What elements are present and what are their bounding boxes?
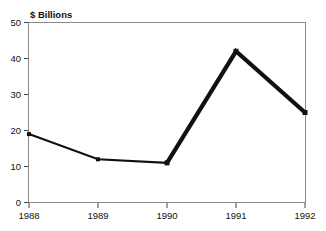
- data-point-marker: [234, 49, 239, 54]
- x-tick-label: 1991: [225, 210, 246, 221]
- y-tick-label: 30: [10, 89, 21, 100]
- chart-background: [0, 0, 326, 231]
- data-point-marker: [27, 132, 31, 136]
- y-tick-label: 50: [10, 17, 21, 28]
- y-tick-label: 10: [10, 161, 21, 172]
- x-tick-label: 1988: [18, 210, 39, 221]
- data-point-marker: [165, 160, 170, 165]
- y-tick-label: 20: [10, 125, 21, 136]
- chart-container: $ Billions 50 40 30 20 10: [0, 0, 326, 231]
- x-tick-label: 1989: [87, 210, 108, 221]
- x-tick-label: 1992: [294, 210, 315, 221]
- data-point-marker: [303, 110, 308, 115]
- y-tick-label: 40: [10, 53, 21, 64]
- chart-title: $ Billions: [30, 9, 72, 20]
- y-tick-label: 0: [16, 197, 21, 208]
- x-tick-label: 1990: [156, 210, 177, 221]
- line-chart: $ Billions 50 40 30 20 10: [0, 0, 326, 231]
- data-point-marker: [96, 157, 100, 161]
